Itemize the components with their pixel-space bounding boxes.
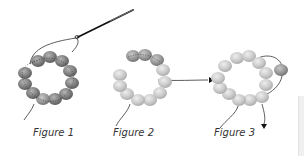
bead <box>31 55 45 67</box>
figure-3-illustration <box>211 50 288 129</box>
bead-highlight <box>138 49 152 61</box>
figure-1-illustration <box>18 10 133 120</box>
figure-3-caption: Figure 3 <box>214 127 255 138</box>
bead <box>259 67 273 79</box>
bead <box>18 78 32 90</box>
bead <box>55 55 69 67</box>
figure-2-caption: Figure 2 <box>113 127 154 138</box>
bead <box>156 64 170 76</box>
bead <box>158 76 172 88</box>
bead <box>63 65 77 77</box>
bead <box>252 57 266 69</box>
figure-2-illustration <box>113 49 214 126</box>
bead <box>48 93 62 105</box>
side-panel-edge <box>298 96 304 156</box>
needle-tip <box>110 10 133 21</box>
bead <box>218 60 232 72</box>
bead-highlight <box>126 50 140 62</box>
figure-1-caption: Figure 1 <box>33 127 74 138</box>
bead-ring <box>211 50 273 106</box>
bead <box>259 79 273 91</box>
bead-ring <box>113 49 172 106</box>
bead <box>230 52 244 64</box>
bead-new <box>274 64 288 76</box>
thread-end <box>116 104 130 126</box>
bead <box>113 69 127 81</box>
bead <box>65 77 79 89</box>
thread-tail <box>72 38 78 52</box>
thread-end <box>220 106 238 128</box>
bead-ring <box>18 51 79 105</box>
bead <box>113 80 127 92</box>
bead <box>43 51 57 63</box>
bead <box>255 91 269 103</box>
bead <box>18 67 32 79</box>
bead <box>211 72 225 84</box>
arrow-head-icon <box>261 124 267 129</box>
bead <box>213 82 227 94</box>
thread-down <box>262 104 265 124</box>
beading-diagram: Figure 1 Figure 2 Figure 3 <box>0 0 304 156</box>
thread-end <box>24 104 34 120</box>
bead <box>143 94 157 106</box>
